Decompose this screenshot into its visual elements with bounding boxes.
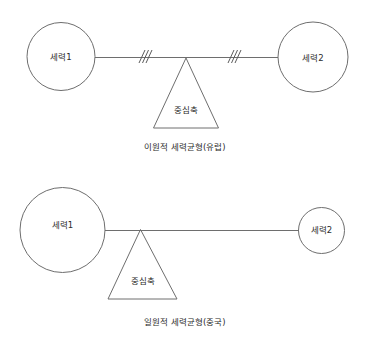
fulcrum-triangle-bipolar: [154, 58, 219, 128]
power-node-label-right-unipolar: 세력2: [311, 225, 332, 235]
fulcrum-label-unipolar: 중심축: [131, 276, 155, 286]
beam-tick-group-left-bipolar: [139, 50, 152, 63]
tick-slash: [228, 50, 234, 63]
beam-tick-group-right-bipolar: [228, 50, 241, 63]
power-node-label-right-bipolar: 세력2: [302, 53, 323, 63]
tick-slash: [143, 50, 149, 63]
tick-slash: [146, 50, 152, 63]
diagram-unipolar-balance: 세력1 세력2 중심축 일원적 세력균형(중국): [20, 188, 345, 327]
power-node-label-left-unipolar: 세력1: [52, 220, 73, 230]
caption-bipolar: 이원적 세력균형(유럽): [144, 142, 225, 152]
balance-of-power-figure: 세력1 세력2 중심축 이원적 세력균형(유럽): [0, 0, 366, 347]
diagram-canvas: 세력1 세력2 중심축 이원적 세력균형(유럽): [0, 0, 366, 347]
tick-slash: [232, 50, 238, 63]
tick-slash: [235, 50, 241, 63]
power-node-label-left-bipolar: 세력1: [50, 52, 71, 62]
fulcrum-triangle-unipolar: [108, 230, 177, 300]
caption-unipolar: 일원적 세력균형(중국): [144, 317, 225, 327]
tick-slash: [139, 50, 145, 63]
power-node-circle-left-unipolar: [20, 188, 105, 273]
diagram-bipolar-balance: 세력1 세력2 중심축 이원적 세력균형(유럽): [27, 22, 348, 152]
fulcrum-label-bipolar: 중심축: [174, 105, 198, 115]
